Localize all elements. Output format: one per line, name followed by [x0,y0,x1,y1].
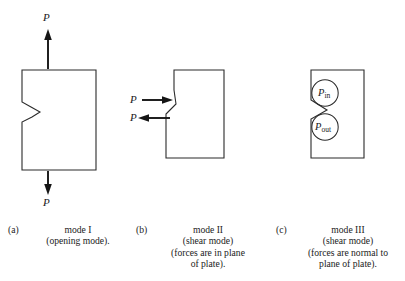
panel-a-load-label-top: P [43,12,50,23]
panel-b-caption-line-1: mode II [152,224,264,235]
panel-a-caption-line-1: mode I [28,224,128,235]
panel-b-arrow-right [142,96,173,104]
panel-b-load-label-top: P [130,94,137,105]
panel-c-caption-line-3: (forces are normal to [292,247,404,258]
panel-c-caption-line-1: mode III [292,224,404,235]
panel-c-caption: mode III (shear mode) (forces are normal… [292,224,404,270]
panel-b-caption-line-3: (forces are in plane [152,247,264,258]
panel-a-caption-tag: (a) [8,224,19,235]
panel-c-label-p-in: Pin [318,88,330,100]
panel-c-plate-outline [311,70,364,158]
panel-a-plate-outline [22,70,96,170]
panel-a-caption-line-2: (opening mode). [28,235,128,246]
panel-a-caption: mode I (opening mode). [28,224,128,247]
p-in-subscript: in [324,91,330,100]
panel-b-plate-outline [166,70,224,158]
panel-c-caption-tag: (c) [276,224,287,235]
panel-b-mode-ii-graphic [138,70,224,158]
panel-a-arrow-down [44,171,52,195]
panel-c-label-p-out: Pout [315,122,331,134]
panel-b-load-label-bottom: P [130,112,137,123]
panel-b-caption: mode II (shear mode) (forces are in plan… [152,224,264,270]
panel-c-caption-line-4: plane of plate). [292,258,404,269]
panel-c-caption-line-2: (shear mode) [292,235,404,246]
fracture-modes-figure: P P P P Pin Pout (a) mode I (opening mod… [0,0,405,281]
panel-b-caption-tag: (b) [136,224,147,235]
panel-b-caption-line-2: (shear mode) [152,235,264,246]
p-out-subscript: out [321,125,331,134]
panel-a-mode-i-graphic [22,29,96,195]
panel-b-caption-line-4: of plate). [152,258,264,269]
panel-b-arrow-left [138,114,170,122]
panel-a-arrow-up [44,29,52,69]
panel-c-mode-iii-graphic [311,70,364,158]
panel-a-load-label-bottom: P [43,197,50,208]
